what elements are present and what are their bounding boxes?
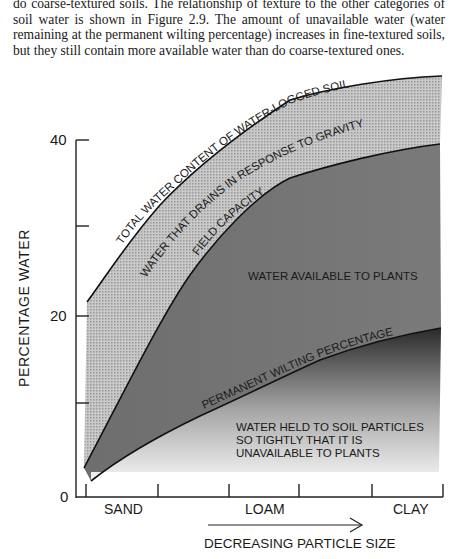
x-label-loam: LOAM [245, 501, 285, 517]
x-label-clay: CLAY [393, 501, 429, 517]
unavailable-water-label-line2: SO TIGHTLY THAT IT IS [236, 434, 363, 446]
soil-water-chart: 40 20 0 PERCENTAGE WATER SAND LOAM CLAY … [0, 0, 454, 559]
x-axis [76, 484, 443, 497]
arrow-right-icon [208, 518, 362, 532]
y-tick-40: 40 [50, 131, 67, 148]
x-label-sand: SAND [104, 501, 143, 517]
y-tick-20: 20 [50, 307, 67, 324]
unavailable-water-label-line1: WATER HELD TO SOIL PARTICLES [236, 421, 424, 433]
available-water-label: WATER AVAILABLE TO PLANTS [248, 270, 418, 282]
y-axis-label: PERCENTAGE WATER [16, 229, 32, 387]
y-tick-0: 0 [60, 488, 68, 505]
unavailable-water-label-line3: UNAVAILABLE TO PLANTS [236, 447, 380, 459]
x-axis-arrow-label: DECREASING PARTICLE SIZE [204, 536, 396, 551]
